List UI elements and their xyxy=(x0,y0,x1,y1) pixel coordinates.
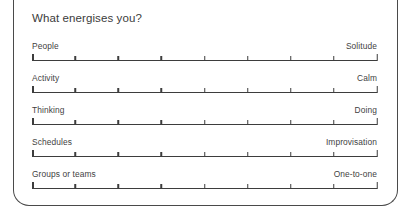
scale-tick[interactable] xyxy=(161,120,163,125)
scale-tick[interactable] xyxy=(118,56,120,61)
scale-tick[interactable] xyxy=(161,184,163,189)
scale-left-label: People xyxy=(32,42,59,50)
scale-tick[interactable] xyxy=(118,152,120,157)
scale-tick[interactable] xyxy=(333,88,335,93)
scale-tick[interactable] xyxy=(204,120,206,125)
scale-end-cap[interactable] xyxy=(32,150,34,157)
scale-tick[interactable] xyxy=(74,120,76,125)
scale-row[interactable]: ActivityCalm xyxy=(32,67,377,99)
scale-right-label: Calm xyxy=(357,74,377,82)
scale-tick[interactable] xyxy=(161,88,163,93)
scale-right-label: Doing xyxy=(355,106,377,114)
scale-tick[interactable] xyxy=(333,56,335,61)
scale-right-label: Solitude xyxy=(346,42,377,50)
scale-tick[interactable] xyxy=(247,184,249,189)
scale-end-cap[interactable] xyxy=(32,182,34,189)
scale-tick[interactable] xyxy=(204,88,206,93)
scale-end-cap[interactable] xyxy=(32,86,34,93)
scale-tick[interactable] xyxy=(290,120,292,125)
scale-track[interactable] xyxy=(32,54,377,61)
scale-tick[interactable] xyxy=(204,184,206,189)
scale-end-cap[interactable] xyxy=(376,54,378,61)
screenshot-root: What energises you? PeopleSolitudeActivi… xyxy=(0,0,412,221)
scale-tick[interactable] xyxy=(247,88,249,93)
page-title: What energises you? xyxy=(32,12,142,24)
scale-row[interactable]: SchedulesImprovisation xyxy=(32,131,377,163)
scale-row[interactable]: PeopleSolitude xyxy=(32,35,377,67)
scale-tick[interactable] xyxy=(74,56,76,61)
scale-tick[interactable] xyxy=(247,120,249,125)
scale-right-label: One-to-one xyxy=(334,170,377,178)
scale-left-label: Schedules xyxy=(32,138,72,146)
scale-labels: Groups or teamsOne-to-one xyxy=(32,163,377,178)
scale-left-label: Activity xyxy=(32,74,59,82)
scale-tick[interactable] xyxy=(290,152,292,157)
scale-tick[interactable] xyxy=(247,56,249,61)
scale-track[interactable] xyxy=(32,86,377,93)
scale-tick[interactable] xyxy=(204,152,206,157)
scale-tick[interactable] xyxy=(290,184,292,189)
scale-row[interactable]: Groups or teamsOne-to-one xyxy=(32,163,377,195)
scale-tick[interactable] xyxy=(118,88,120,93)
scale-right-label: Improvisation xyxy=(326,138,377,146)
scale-tick[interactable] xyxy=(118,184,120,189)
scale-tick[interactable] xyxy=(290,56,292,61)
scale-labels: ThinkingDoing xyxy=(32,99,377,114)
scale-track[interactable] xyxy=(32,118,377,125)
scale-left-label: Groups or teams xyxy=(32,170,96,178)
scale-end-cap[interactable] xyxy=(376,118,378,125)
scale-tick[interactable] xyxy=(74,88,76,93)
scale-track[interactable] xyxy=(32,150,377,157)
scale-end-cap[interactable] xyxy=(376,182,378,189)
scale-tick[interactable] xyxy=(333,184,335,189)
scale-tick[interactable] xyxy=(74,152,76,157)
scale-tick[interactable] xyxy=(118,120,120,125)
scale-left-label: Thinking xyxy=(32,106,64,114)
scale-end-cap[interactable] xyxy=(376,86,378,93)
scale-end-cap[interactable] xyxy=(376,150,378,157)
scale-tick[interactable] xyxy=(290,88,292,93)
scale-labels: SchedulesImprovisation xyxy=(32,131,377,146)
scale-tick[interactable] xyxy=(247,152,249,157)
scale-row[interactable]: ThinkingDoing xyxy=(32,99,377,131)
scale-tick[interactable] xyxy=(161,56,163,61)
scale-list: PeopleSolitudeActivityCalmThinkingDoingS… xyxy=(32,35,377,195)
scale-end-cap[interactable] xyxy=(32,118,34,125)
scale-track[interactable] xyxy=(32,182,377,189)
scale-labels: ActivityCalm xyxy=(32,67,377,82)
scale-labels: PeopleSolitude xyxy=(32,35,377,50)
scale-tick[interactable] xyxy=(161,152,163,157)
scale-tick[interactable] xyxy=(333,120,335,125)
scale-end-cap[interactable] xyxy=(32,54,34,61)
worksheet-card: What energises you? PeopleSolitudeActivi… xyxy=(13,0,398,206)
scale-tick[interactable] xyxy=(333,152,335,157)
scale-tick[interactable] xyxy=(74,184,76,189)
scale-tick[interactable] xyxy=(204,56,206,61)
